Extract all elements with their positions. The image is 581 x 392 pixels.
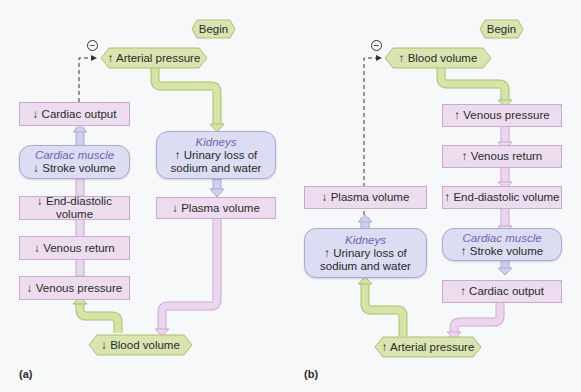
kidneys-box-a: Kidneys ↑ Urinary loss of sodium and wat… (156, 131, 276, 179)
cardiac-output-box-b: ↑ Cardiac output (442, 280, 562, 303)
cardiac-output-box-a: ↓ Cardiac output (19, 102, 130, 126)
venous-pressure-box-b: ↑ Venous pressure (442, 104, 562, 127)
arrow-arterial-to-kidneys (155, 68, 217, 126)
panel-label-b: (b) (304, 368, 318, 380)
kidneys-box-b: Kidneys ↑ Urinary loss of sodium and wat… (304, 228, 427, 278)
venous-return-box-a: ↓ Venous return (19, 236, 130, 260)
panel-label-a: (a) (19, 368, 32, 380)
cardiac-muscle-box-a: Cardiac muscle ↓ Stroke volume (19, 145, 130, 179)
negative-feedback-icon-a: − (87, 40, 98, 51)
blood-volume-node-b: ↑ Blood volume (384, 47, 492, 69)
negative-feedback-icon-b: − (371, 40, 382, 51)
end-diastolic-volume-box-b: ↑ End-diastolic volume (442, 186, 562, 209)
plasma-volume-box-a: ↓ Plasma volume (156, 197, 276, 219)
arterial-pressure-node-b: ↑ Arterial pressure (374, 336, 482, 358)
arrow-plasma-to-blood (162, 218, 217, 330)
feedback-line-a (79, 58, 96, 102)
blood-volume-node-a: ↓ Blood volume (88, 334, 193, 356)
begin-node-a: Begin (191, 19, 236, 39)
plasma-volume-box-b: ↓ Plasma volume (304, 186, 427, 209)
venous-pressure-box-a: ↓ Venous pressure (19, 276, 130, 300)
arterial-pressure-node-a: ↑ Arterial pressure (100, 47, 208, 69)
begin-node-b: Begin (479, 19, 524, 39)
cardiac-muscle-box-b: Cardiac muscle ↑ Stroke volume (442, 228, 562, 261)
end-diastolic-volume-box-a: ↓ End-diastolic volume (19, 196, 130, 220)
venous-return-box-b: ↑ Venous return (442, 145, 562, 168)
